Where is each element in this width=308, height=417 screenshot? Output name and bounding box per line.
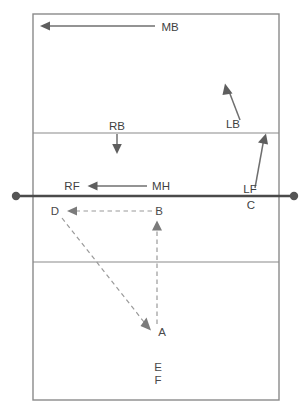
label-mh: MH (152, 180, 170, 192)
label-rf: RF (64, 180, 79, 192)
left-antenna-dot (12, 192, 20, 200)
label-point-b: B (155, 205, 163, 217)
label-point-a: A (158, 326, 166, 338)
label-rb: RB (109, 120, 125, 132)
label-point-f: F (154, 374, 161, 386)
label-lb: LB (226, 118, 240, 130)
right-antenna-dot (290, 192, 298, 200)
volleyball-court-diagram: MB LB RB RF MH LF C (0, 0, 308, 417)
label-mb: MB (161, 21, 179, 33)
label-point-e: E (154, 361, 162, 373)
label-point-d: D (51, 205, 59, 217)
label-c: C (247, 199, 255, 211)
court-svg: MB LB RB RF MH LF C (0, 0, 308, 417)
label-lf: LF (243, 183, 256, 195)
